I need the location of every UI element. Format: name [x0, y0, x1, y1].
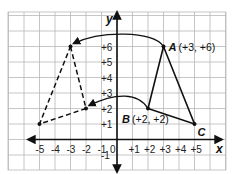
- y-tick-label: +5: [101, 57, 113, 68]
- reflection-arrow-a: [74, 34, 164, 46]
- point-labels: A(+3, +6)B(+2, +2)C: [122, 41, 215, 139]
- x-tick-label: +5: [191, 144, 203, 155]
- image-triangle-dashed: [40, 47, 87, 125]
- y-tick-label: +2: [101, 104, 113, 115]
- vertex-point: [193, 122, 197, 126]
- y-axis-label: y: [105, 12, 114, 26]
- vertex-point: [162, 45, 166, 49]
- tick-labels: -5-4-3-2-10+1+2+3+4+5+6+5+4+3+2+1-1: [36, 42, 203, 162]
- y-tick-label: -1: [101, 150, 110, 161]
- coordinate-plane-diagram: xy -5-4-3-2-10+1+2+3+4+5+6+5+4+3+2+1-1 A…: [0, 0, 235, 174]
- x-tick-label: -4: [51, 144, 60, 155]
- x-axis-label: x: [215, 142, 224, 156]
- vertex-point: [146, 107, 150, 111]
- point-label-a: A: [168, 41, 177, 53]
- y-tick-label: +1: [101, 119, 113, 130]
- reflection-arrow-b: [89, 96, 148, 108]
- x-tick-label: -3: [67, 144, 76, 155]
- vertex-point: [69, 45, 73, 49]
- point-label-b: B: [122, 113, 130, 125]
- point-label-c: C: [198, 126, 207, 138]
- vertex-point: [38, 122, 42, 126]
- x-tick-label: -2: [82, 144, 91, 155]
- y-tick-label: +4: [101, 73, 113, 84]
- x-tick-label: -5: [36, 144, 45, 155]
- x-tick-label: +4: [175, 144, 187, 155]
- x-tick-label: +2: [144, 144, 156, 155]
- coord-label-a: (+3, +6): [179, 41, 216, 53]
- vertex-point: [84, 107, 88, 111]
- coord-label-b: (+2, +2): [132, 113, 169, 125]
- x-tick-label: +1: [129, 144, 141, 155]
- x-tick-label: +3: [160, 144, 172, 155]
- y-tick-label: +6: [101, 42, 113, 53]
- x-tick-label: 0: [110, 144, 116, 155]
